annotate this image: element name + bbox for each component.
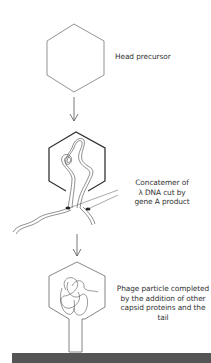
cut-site-marker <box>66 206 71 209</box>
arrow-down-icon <box>73 234 81 256</box>
concatemer-hexagon <box>49 132 105 191</box>
concatemer-text-line: gene A product <box>118 197 206 207</box>
packaged-dna <box>60 278 98 315</box>
concatemer-label: Concatemer of λ DNA cut by gene A produc… <box>118 178 206 207</box>
phage-particle-label: Phage particle completed by the addition… <box>115 284 211 322</box>
head-precursor-label: Head precursor <box>115 52 171 62</box>
head-precursor-text: Head precursor <box>115 52 171 61</box>
concatemer-text-line: λ DNA cut by <box>118 188 206 198</box>
phage-particle-outline <box>49 262 105 352</box>
head-precursor-hexagon <box>47 24 104 92</box>
concatemer-text-line: Concatemer of <box>118 178 206 188</box>
dna-strand <box>13 138 95 234</box>
bottom-bar <box>12 353 211 363</box>
phage-text-line: Phage particle completed <box>115 284 211 294</box>
phage-text-line: capsid proteins and the tail <box>115 303 211 322</box>
phage-text-line: by the addition of other <box>115 294 211 304</box>
arrow-down-icon <box>70 97 78 121</box>
